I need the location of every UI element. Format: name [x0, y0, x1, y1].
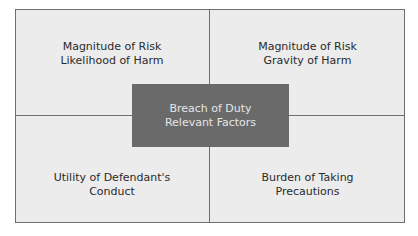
quadrant-label-line1: Burden of Taking — [210, 171, 405, 185]
quadrant-label-line2: Gravity of Harm — [210, 54, 405, 68]
quadrant-label-line1: Utility of Defendant's — [15, 171, 209, 185]
quadrant-utility-of-conduct: Utility of Defendant's Conduct — [15, 171, 209, 199]
quadrant-gravity-of-harm: Magnitude of Risk Gravity of Harm — [210, 40, 405, 68]
breach-of-duty-diagram: Magnitude of Risk Likelihood of Harm Mag… — [0, 0, 418, 236]
quadrant-label-line1: Magnitude of Risk — [210, 40, 405, 54]
center-breach-of-duty-box: Breach of Duty Relevant Factors — [132, 84, 289, 147]
quadrant-burden-of-precautions: Burden of Taking Precautions — [210, 171, 405, 199]
quadrant-label-line2: Conduct — [15, 185, 209, 199]
quadrant-likelihood-of-harm: Magnitude of Risk Likelihood of Harm — [15, 40, 209, 68]
quadrant-label-line1: Magnitude of Risk — [15, 40, 209, 54]
center-label-line2: Relevant Factors — [165, 116, 256, 130]
center-label-line1: Breach of Duty — [169, 102, 251, 116]
quadrant-label-line2: Precautions — [210, 185, 405, 199]
quadrant-label-line2: Likelihood of Harm — [15, 54, 209, 68]
